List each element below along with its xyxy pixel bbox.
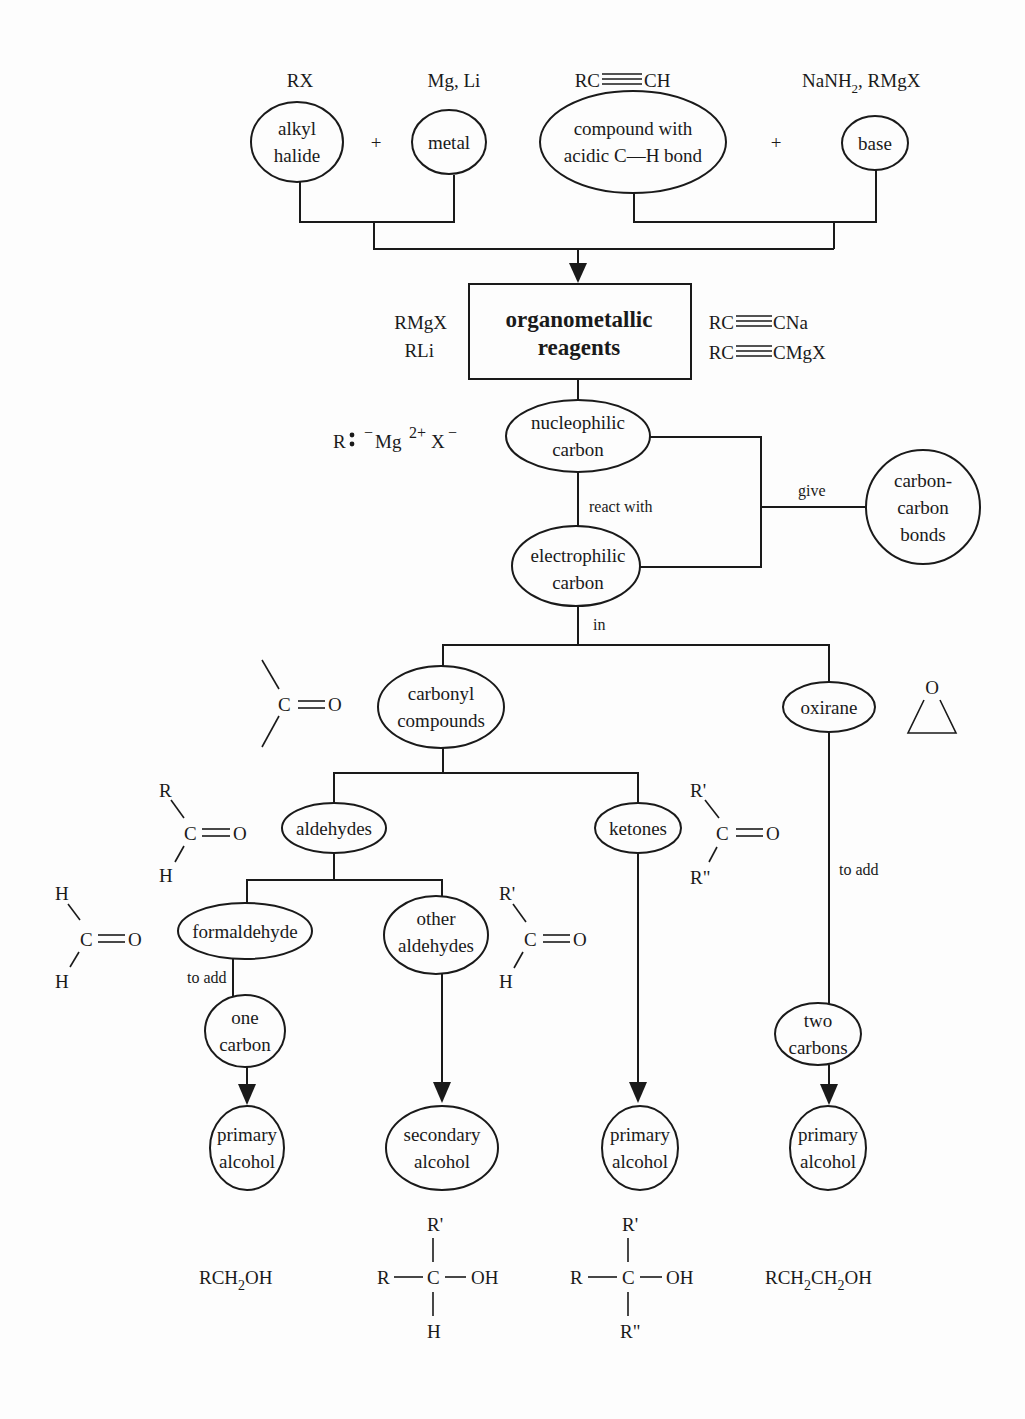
svg-text:aldehydes: aldehydes	[296, 818, 372, 839]
svg-text:CH: CH	[644, 70, 671, 91]
other-aldehyde-structure: R' C O H	[499, 883, 587, 992]
formaldehyde-structure: H C O H	[55, 883, 142, 992]
svg-text:O: O	[766, 823, 780, 844]
svg-text:O: O	[328, 694, 342, 715]
give-label: give	[798, 482, 826, 500]
alkyne-label: RC CH	[575, 70, 671, 91]
svg-text:Mg: Mg	[375, 431, 402, 452]
svg-text:O: O	[573, 929, 587, 950]
arrow-down-icon	[433, 1082, 451, 1103]
svg-text:H: H	[55, 883, 69, 904]
svg-text:two: two	[804, 1010, 833, 1031]
carbonyl-compounds-node: carbonyl compounds	[378, 666, 504, 748]
svg-text:2+: 2+	[409, 424, 426, 441]
svg-text:C: C	[80, 929, 93, 950]
arrow-down-icon	[629, 1082, 647, 1103]
alkyl-halide-node: alkyl halide	[251, 102, 343, 182]
ionic-grignard-formula: R − Mg 2+ X −	[333, 424, 457, 452]
in-label: in	[593, 616, 605, 633]
svg-text:C: C	[524, 929, 537, 950]
svg-text:C: C	[622, 1267, 635, 1288]
oxirane-structure: O	[908, 677, 956, 733]
svg-text:reagents: reagents	[538, 335, 621, 360]
svg-text:O: O	[925, 677, 939, 698]
ketone-structure: R' C O R"	[690, 780, 780, 888]
svg-text:carbonyl: carbonyl	[408, 683, 474, 704]
svg-text:halide: halide	[274, 145, 320, 166]
organometallic-concept-map: RX Mg, Li RC CH NaNH2, RMgX alkyl halide…	[0, 0, 1025, 1419]
svg-text:R': R'	[499, 883, 515, 904]
svg-text:primary: primary	[217, 1124, 278, 1145]
svg-text:carbon: carbon	[219, 1034, 271, 1055]
svg-text:carbon-: carbon-	[894, 470, 952, 491]
svg-text:aldehydes: aldehydes	[398, 935, 474, 956]
plus-sign: +	[371, 132, 382, 153]
svg-text:acidic C—H bond: acidic C—H bond	[564, 145, 703, 166]
svg-text:R': R'	[622, 1214, 638, 1235]
svg-text:R': R'	[427, 1214, 443, 1235]
carbonyl-structure: C O	[262, 660, 342, 747]
svg-text:H: H	[159, 865, 173, 886]
svg-text:primary: primary	[798, 1124, 859, 1145]
formula-rch2oh: RCH2OH	[199, 1267, 273, 1293]
sodium-acetylide-formula: RC CNa	[709, 312, 809, 333]
aldehyde-structure: R C O H	[159, 780, 247, 886]
svg-text:C: C	[716, 823, 729, 844]
svg-text:H: H	[499, 971, 513, 992]
to-add-label: to add	[187, 969, 227, 986]
svg-text:metal: metal	[428, 132, 470, 153]
svg-text:CMgX: CMgX	[773, 342, 826, 363]
svg-text:organometallic: organometallic	[506, 307, 653, 332]
svg-text:R: R	[159, 780, 172, 801]
to-add-label: to add	[839, 861, 879, 878]
svg-text:alcohol: alcohol	[414, 1151, 470, 1172]
svg-text:secondary: secondary	[403, 1124, 481, 1145]
svg-text:bonds: bonds	[900, 524, 945, 545]
svg-text:carbons: carbons	[788, 1037, 847, 1058]
rmgx-formula: RMgX	[394, 312, 447, 333]
svg-text:carbon: carbon	[552, 572, 604, 593]
other-aldehydes-node: other aldehydes	[384, 896, 488, 974]
svg-text:CNa: CNa	[773, 312, 808, 333]
svg-text:alkyl: alkyl	[278, 118, 316, 139]
product-primary-alcohol-1: primary alcohol	[210, 1106, 284, 1190]
svg-text:compounds: compounds	[397, 710, 485, 731]
svg-text:R: R	[333, 431, 346, 452]
svg-text:RC: RC	[709, 312, 734, 333]
svg-text:O: O	[233, 823, 247, 844]
svg-text:R: R	[377, 1267, 390, 1288]
arrow-down-icon	[820, 1084, 838, 1105]
product-primary-alcohol-3: primary alcohol	[790, 1106, 866, 1190]
svg-text:compound with: compound with	[574, 118, 693, 139]
svg-text:oxirane: oxirane	[801, 697, 858, 718]
svg-text:formaldehyde: formaldehyde	[192, 921, 298, 942]
product-arrows	[238, 853, 838, 1105]
svg-text:−: −	[364, 424, 373, 441]
acetylide-grignard-formula: RC CMgX	[709, 342, 826, 363]
rli-formula: RLi	[404, 340, 434, 361]
svg-text:carbon: carbon	[897, 497, 949, 518]
svg-text:−: −	[448, 424, 457, 441]
formula-secondary-alcohol: R C OH R' H	[377, 1214, 499, 1342]
svg-text:R: R	[570, 1267, 583, 1288]
svg-text:other: other	[416, 908, 456, 929]
arrow-down-icon	[569, 263, 587, 283]
svg-text:OH: OH	[471, 1267, 499, 1288]
svg-text:C: C	[427, 1267, 440, 1288]
svg-text:alcohol: alcohol	[219, 1151, 275, 1172]
metal-node: metal	[412, 110, 486, 174]
svg-text:C: C	[184, 823, 197, 844]
metals-label: Mg, Li	[428, 70, 481, 91]
product-secondary-alcohol: secondary alcohol	[386, 1106, 498, 1190]
plus-sign: +	[771, 132, 782, 153]
bases-label: NaNH2, RMgX	[802, 70, 921, 96]
react-with-label: react with	[589, 498, 653, 515]
formaldehyde-node: formaldehyde	[178, 903, 312, 959]
svg-text:alcohol: alcohol	[800, 1151, 856, 1172]
rx-label: RX	[287, 70, 314, 91]
svg-text:base: base	[858, 133, 892, 154]
svg-text:RC: RC	[709, 342, 734, 363]
ketones-node: ketones	[595, 803, 681, 853]
oxirane-node: oxirane	[783, 682, 875, 732]
formula-rch2ch2oh: RCH2CH2OH	[765, 1267, 872, 1293]
